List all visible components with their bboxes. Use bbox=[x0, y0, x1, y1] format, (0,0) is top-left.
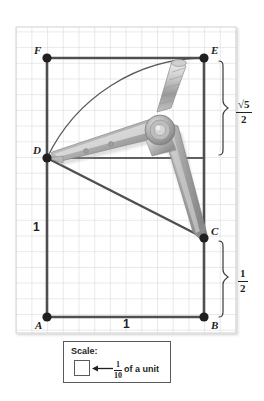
bottom-side-length-label: 1 bbox=[123, 318, 130, 330]
compass-pivot-hub[interactable] bbox=[145, 115, 175, 145]
measure-label-sqrt5-over-2: √5 2 bbox=[236, 99, 252, 125]
point-label-E: E bbox=[211, 45, 218, 56]
point-C bbox=[199, 233, 208, 242]
legend-fraction-numerator: 1 bbox=[116, 361, 120, 369]
left-side-length-label: 1 bbox=[33, 221, 40, 233]
legend-unit-text: of a unit bbox=[124, 364, 159, 374]
half-numerator: 1 bbox=[238, 268, 248, 280]
point-B bbox=[199, 312, 208, 321]
point-label-C: C bbox=[211, 226, 218, 237]
legend-fraction-denominator: 10 bbox=[114, 372, 122, 380]
point-label-D: D bbox=[33, 145, 41, 156]
sqrt5-numerator: √5 bbox=[236, 99, 252, 111]
point-label-A: A bbox=[35, 320, 42, 331]
compass-rivet-1 bbox=[84, 149, 89, 154]
compass-rivet-2 bbox=[109, 142, 114, 147]
sqrt5-denominator: 2 bbox=[239, 114, 249, 126]
point-E bbox=[199, 53, 208, 62]
half-denominator: 2 bbox=[238, 283, 248, 295]
point-label-F: F bbox=[34, 45, 41, 56]
point-F bbox=[42, 53, 51, 62]
point-D bbox=[42, 153, 51, 162]
legend-title: Scale: bbox=[71, 346, 98, 356]
legend-fraction: 1 10 bbox=[114, 361, 122, 380]
point-label-B: B bbox=[211, 320, 218, 331]
left-arrow-icon bbox=[92, 364, 114, 373]
measure-label-one-half: 1 2 bbox=[238, 268, 248, 294]
legend-unit-square bbox=[74, 360, 90, 376]
point-A bbox=[42, 312, 51, 321]
scale-legend: Scale: 1 10 of a unit bbox=[63, 341, 171, 383]
